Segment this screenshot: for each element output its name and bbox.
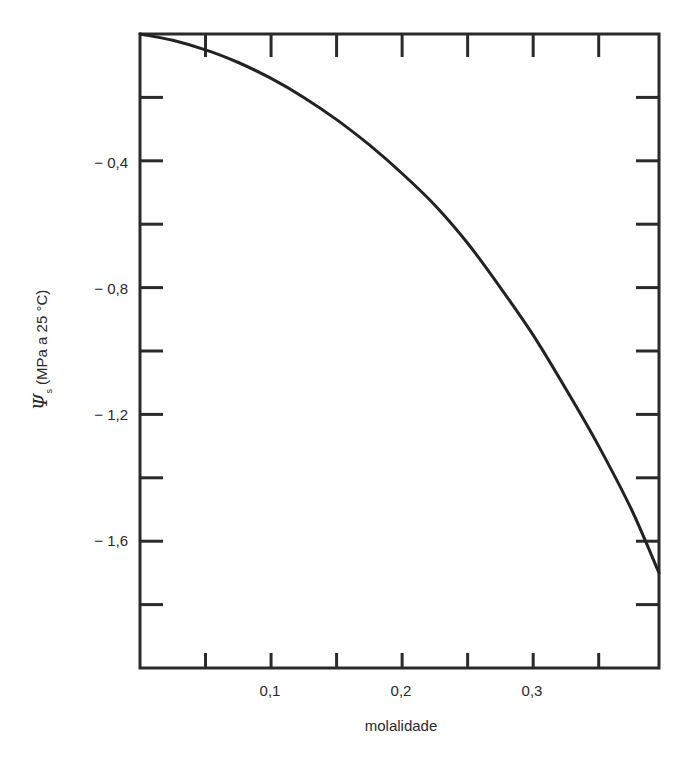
y-tick-label: − 1,6 xyxy=(94,532,128,549)
x-tick-label: 0,2 xyxy=(391,682,412,699)
chart: 0,1 0,2 0,3 − 0,4 − 0,8 − 1,2 − 1,6 mola… xyxy=(0,0,694,762)
y-tick-label: − 1,2 xyxy=(94,406,128,423)
y-tick-label: − 0,8 xyxy=(94,280,128,297)
x-tick-label: 0,1 xyxy=(260,682,281,699)
plot-frame xyxy=(140,34,659,668)
y-tick-label: − 0,4 xyxy=(94,154,128,171)
tick-marks xyxy=(140,34,659,668)
psi-symbol: Ψ xyxy=(29,392,51,410)
y-axis-title: Ψs (MPa a 25 °C) xyxy=(29,290,54,411)
y-axis-unit: (MPa a 25 °C) xyxy=(33,290,50,389)
x-axis-title: molalidade xyxy=(365,717,438,734)
data-curve xyxy=(140,34,659,573)
svg-text:Ψs (MPa a 25 °C): Ψs (MPa a 25 °C) xyxy=(29,290,54,411)
x-tick-label: 0,3 xyxy=(522,682,543,699)
